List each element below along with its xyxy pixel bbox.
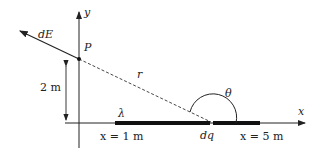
height-label: 2 m bbox=[40, 81, 61, 94]
theta-label: θ bbox=[225, 87, 232, 100]
charged-rod-diagram: dE P r 2 m λ θ dq x = 1 m x = 5 m x y bbox=[0, 0, 323, 157]
x-axis-label: x bbox=[298, 105, 305, 118]
start-label: x = 1 m bbox=[100, 130, 144, 143]
end-label: x = 5 m bbox=[240, 130, 284, 143]
distance-line-r bbox=[79, 59, 211, 122]
point-p bbox=[77, 57, 81, 61]
field-label: dE bbox=[38, 28, 53, 41]
y-axis-label: y bbox=[83, 6, 91, 19]
lambda-label: λ bbox=[117, 107, 125, 120]
distance-label: r bbox=[137, 68, 143, 81]
point-label: P bbox=[83, 41, 92, 54]
dq-label: dq bbox=[200, 129, 214, 142]
